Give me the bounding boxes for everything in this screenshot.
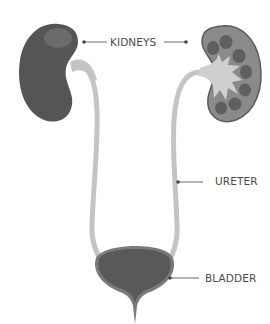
calyx xyxy=(240,65,252,79)
leader-ureter xyxy=(176,180,203,184)
right-ureter xyxy=(164,72,200,268)
urinary-system-diagram: KIDNEYS URETER BLADDER xyxy=(0,0,270,324)
leader-bladder xyxy=(168,276,199,280)
calyx xyxy=(233,49,246,63)
calyx xyxy=(220,35,233,49)
leader-kidneys-right xyxy=(164,40,188,44)
calyx xyxy=(207,41,219,55)
right-kidney xyxy=(198,26,261,122)
left-kidney-highlight xyxy=(44,28,72,48)
calyx xyxy=(215,102,227,115)
calyx xyxy=(239,84,251,97)
calyx xyxy=(229,98,242,111)
bladder xyxy=(95,246,174,324)
leader-kidneys-left xyxy=(82,40,107,44)
label-ureter: URETER xyxy=(215,176,258,187)
label-bladder: BLADDER xyxy=(205,273,256,284)
label-kidneys: KIDNEYS xyxy=(110,37,156,48)
left-kidney xyxy=(19,24,78,122)
left-ureter xyxy=(74,65,108,268)
left-ureter-funnel xyxy=(70,59,97,82)
